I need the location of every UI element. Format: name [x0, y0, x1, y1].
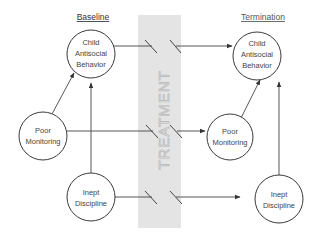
node-label-line: Child [82, 38, 99, 47]
termination-header: Termination [241, 12, 285, 22]
baseline-header: Baseline [77, 12, 110, 22]
node-label-line: Discipline [263, 201, 295, 210]
node-label-line: Antisocial [75, 49, 107, 58]
node-baseline-child-antisocial-behavior: Child Antisocial Behavior [67, 30, 115, 78]
node-label-line: Antisocial [241, 50, 273, 59]
treatment-label: TREATMENT [155, 70, 172, 170]
node-label-line: Monitoring [212, 138, 247, 147]
node-termination-child-antisocial-behavior: Child Antisocial Behavior [233, 32, 281, 80]
node-label-line: Discipline [75, 199, 107, 208]
node-label-line: Child [248, 39, 265, 48]
node-baseline-poor-monitoring: Poor Monitoring [19, 112, 67, 160]
treatment-model-diagram: TREATMENT Baseline Termination Child Ant… [0, 0, 323, 234]
node-label-line: Inept [83, 188, 101, 197]
node-termination-poor-monitoring: Poor Monitoring [207, 114, 253, 160]
node-label-line: Behavior [76, 60, 106, 69]
node-label-line: Monitoring [25, 137, 60, 146]
node-label-line: Inept [271, 190, 289, 199]
edge-termination-monitoring-to-child [241, 80, 260, 118]
node-label-line: Poor [35, 126, 51, 135]
edge-baseline-monitoring-to-child [52, 73, 74, 114]
node-label-line: Poor [222, 127, 238, 136]
node-label-line: Behavior [242, 61, 272, 70]
node-termination-inept-discipline: Inept Discipline [255, 175, 303, 223]
node-baseline-inept-discipline: Inept Discipline [67, 173, 115, 221]
